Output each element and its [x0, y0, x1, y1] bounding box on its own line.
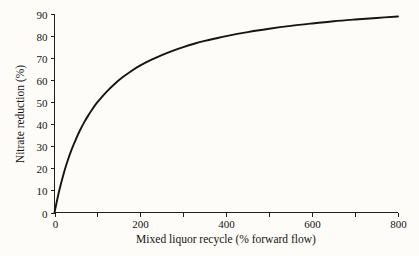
- y-tick-label: 70: [37, 53, 49, 65]
- x-tick-label: 600: [304, 218, 321, 230]
- y-axis-title: Nitrate reduction (%): [14, 65, 27, 164]
- y-tick-label: 0: [42, 208, 48, 220]
- y-tick-label: 90: [37, 9, 49, 21]
- y-tick-label: 10: [37, 185, 49, 197]
- x-tick-label: 800: [390, 218, 407, 230]
- y-tick-label: 40: [37, 119, 49, 131]
- y-tick-label: 20: [37, 163, 49, 175]
- chart-background: [0, 0, 419, 256]
- nitrate-reduction-chart: 0102030405060708090 0200400600800 Mixed …: [0, 0, 419, 256]
- x-tick-label: 400: [218, 218, 235, 230]
- y-tick-label: 50: [37, 97, 49, 109]
- x-tick-label: 200: [132, 218, 149, 230]
- figure-container: 0102030405060708090 0200400600800 Mixed …: [0, 0, 419, 256]
- y-tick-label: 80: [37, 31, 49, 43]
- x-axis-title: Mixed liquor recycle (% forward flow): [136, 233, 316, 246]
- y-tick-label: 60: [37, 75, 49, 87]
- x-tick-label: 0: [53, 218, 59, 230]
- y-tick-label: 30: [37, 141, 49, 153]
